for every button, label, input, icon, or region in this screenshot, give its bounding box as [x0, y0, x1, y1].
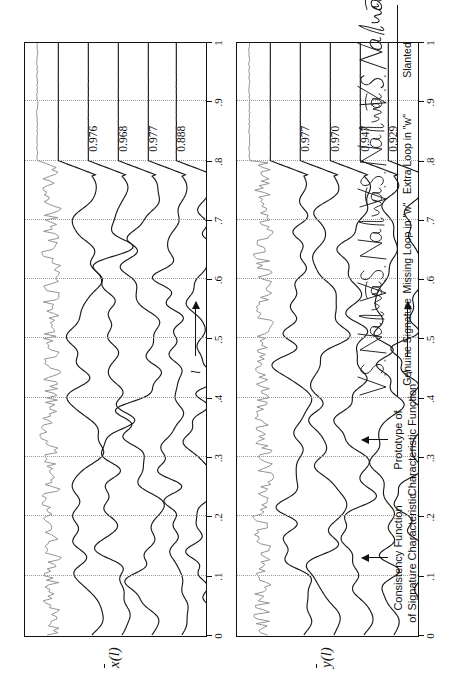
gridline [25, 100, 206, 101]
consistency-score-label: 0.977 [147, 126, 159, 152]
signature-stroke [372, 3, 381, 25]
x-axis-arrow-x [195, 302, 196, 356]
signature-drawing [352, 0, 396, 119]
y-bar-symbol: y [318, 661, 335, 668]
consistency-score-label: 0.968 [117, 126, 129, 152]
gridline [25, 515, 206, 516]
callout-consistency-function: Consistency Function of Signature Charac… [362, 483, 420, 633]
signature-stroke [361, 364, 384, 373]
consistency-score-label: 0.970 [329, 126, 341, 152]
axis-tick-label: .4 [424, 395, 436, 403]
axis-tick-label: .6 [424, 276, 436, 284]
signature-stroke [358, 334, 386, 353]
gridline [25, 219, 206, 220]
signature-block-slanted: Slanted [352, 1, 413, 119]
axis-tick-label: .1 [424, 573, 436, 581]
gridline [25, 338, 206, 339]
consistency-score-label: 0.976 [87, 126, 99, 152]
signature-stroke [358, 189, 386, 207]
up-arrow-icon [362, 440, 388, 441]
signature-caption-3: Slanted [401, 1, 413, 119]
signature-stroke [358, 86, 386, 110]
signature-stroke [358, 283, 386, 301]
axis-tick-label: .7 [424, 217, 436, 225]
gridline [25, 278, 206, 279]
axis-tick-label: .1 [212, 573, 224, 581]
gridline [25, 575, 206, 576]
signature-stroke [370, 229, 381, 242]
signature-stroke [371, 0, 381, 10]
signature-rule [397, 5, 398, 115]
consistency-score-label: 0.977 [299, 126, 311, 152]
x-axis-title-x: l [188, 370, 204, 374]
signature-stroke [361, 75, 384, 89]
y-bar-arg: (l) [318, 647, 334, 661]
signature-stroke [361, 270, 384, 279]
y-axis-label-x: x(l) [106, 647, 123, 668]
signature-stroke [370, 135, 381, 148]
consistency-score-label: 0.888 [175, 126, 187, 152]
x-bar-arg: (l) [106, 647, 122, 661]
axis-tick-label: .2 [212, 513, 224, 521]
axis-tick-label: 0 [212, 633, 224, 639]
signature-stroke [358, 377, 386, 395]
signature-stroke [358, 240, 386, 259]
x-axis-panel-x: 0.1.2.3.4.5.6.7.8.91 [207, 42, 233, 637]
axis-tick-label: .9 [212, 98, 224, 106]
axis-tick-label: .7 [212, 217, 224, 225]
axis-tick-label: 0 [424, 633, 436, 639]
callout-line-1: Consistency Function [392, 483, 406, 633]
signature-stroke [359, 312, 384, 319]
signature-stroke [359, 218, 384, 225]
axis-tick-label: 1 [424, 40, 436, 46]
up-arrow-icon [362, 558, 388, 559]
figure-root: x(l) 0.9760.9680.9770.888 0.1.2.3.4.5.6.… [0, 0, 464, 674]
axis-tick-label: 1 [212, 40, 224, 46]
axis-tick-label: .6 [212, 276, 224, 284]
y-axis-label-y: y(l) [318, 647, 335, 668]
axis-tick-label: .3 [424, 454, 436, 462]
axis-tick-label: .5 [424, 335, 436, 343]
axis-tick-label: .5 [212, 335, 224, 343]
axis-tick-label: .9 [424, 98, 436, 106]
gridline [25, 160, 206, 161]
plot-panel-x: 0.9760.9680.9770.888 [24, 42, 207, 637]
signature-stroke [366, 0, 368, 9]
gridline [25, 397, 206, 398]
axis-tick-label: .4 [212, 395, 224, 403]
signature-stroke [359, 22, 384, 35]
signature-stroke [370, 323, 381, 336]
axis-tick-label: .8 [424, 157, 436, 165]
axis-tick-label: .3 [212, 454, 224, 462]
signature-stroke [361, 176, 384, 185]
x-bar-symbol: x [106, 661, 123, 668]
gridline [25, 456, 206, 457]
signature-image-3 [352, 1, 396, 119]
axis-tick-label: .8 [212, 157, 224, 165]
signature-stroke [358, 146, 386, 165]
callout-line-2: of Signature Characteristic [406, 483, 420, 633]
axis-tick-label: .2 [424, 513, 436, 521]
x-axis-panel-y: 0.1.2.3.4.5.6.7.8.91 [419, 42, 445, 637]
rotated-figure-canvas: x(l) 0.9760.9680.9770.888 0.1.2.3.4.5.6.… [0, 0, 464, 674]
signature-stroke [359, 124, 384, 131]
